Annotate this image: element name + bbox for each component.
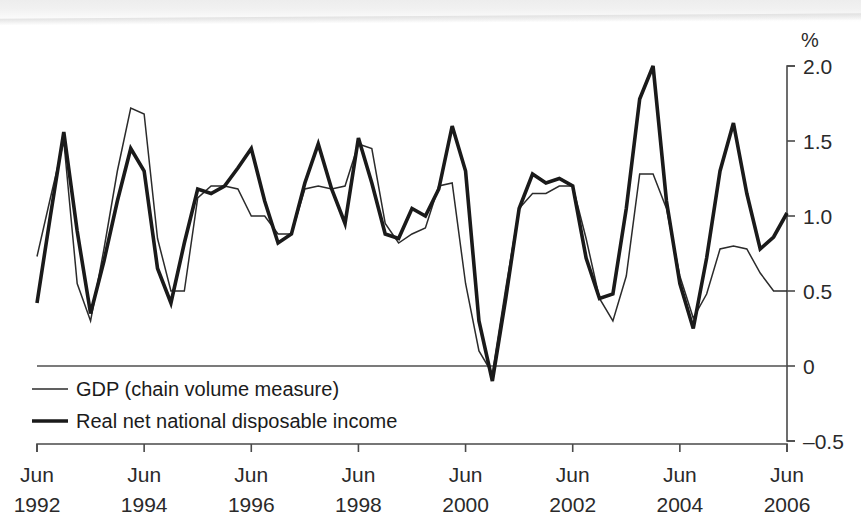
y-axis-ticks	[787, 66, 795, 441]
x-tick-label-year-1: 1994	[121, 493, 168, 516]
y-tick-label-3: 0.5	[803, 280, 832, 303]
x-tick-label-month-2: Jun	[234, 463, 268, 486]
chart-legend: GDP (chain volume measure) Real net nati…	[32, 378, 397, 432]
x-tick-label-year-3: 1998	[335, 493, 382, 516]
x-tick-label-year-0: 1992	[14, 493, 61, 516]
legend-label-gdp: GDP (chain volume measure)	[76, 378, 339, 400]
series-line-real-net-national-disposable-income	[37, 66, 787, 381]
legend-label-real-net-national-disposable-income: Real net national disposable income	[76, 410, 397, 432]
y-tick-label-4: 0	[803, 355, 815, 378]
y-axis-line	[787, 66, 795, 441]
y-tick-label-2: 1.0	[803, 205, 832, 228]
y-tick-label-0: 2.0	[803, 55, 832, 78]
x-tick-label-month-5: Jun	[556, 463, 590, 486]
y-axis-unit-label: %	[801, 29, 819, 51]
x-tick-label-month-6: Jun	[663, 463, 697, 486]
x-axis-tick-labels: Jun1992Jun1994Jun1996Jun1998Jun2000Jun20…	[14, 463, 811, 516]
x-tick-label-month-7: Jun	[770, 463, 804, 486]
x-tick-label-month-1: Jun	[127, 463, 161, 486]
x-tick-label-year-2: 1996	[228, 493, 275, 516]
x-axis-ticks	[37, 444, 787, 452]
line-chart: 2.01.51.00.50–0.5 Jun1992Jun1994Jun1996J…	[0, 0, 861, 525]
x-tick-label-month-3: Jun	[341, 463, 375, 486]
x-tick-label-year-6: 2004	[656, 493, 703, 516]
x-tick-label-year-7: 2006	[764, 493, 811, 516]
x-tick-label-year-4: 2000	[442, 493, 489, 516]
x-tick-label-month-0: Jun	[20, 463, 54, 486]
x-tick-label-year-5: 2002	[549, 493, 596, 516]
y-axis-tick-labels: 2.01.51.00.50–0.5	[803, 55, 844, 453]
y-tick-label-1: 1.5	[803, 130, 832, 153]
x-tick-label-month-4: Jun	[449, 463, 483, 486]
x-axis-line	[37, 444, 787, 452]
y-tick-label-5: –0.5	[803, 430, 844, 453]
chart-container: 2.01.51.00.50–0.5 Jun1992Jun1994Jun1996J…	[0, 0, 861, 525]
